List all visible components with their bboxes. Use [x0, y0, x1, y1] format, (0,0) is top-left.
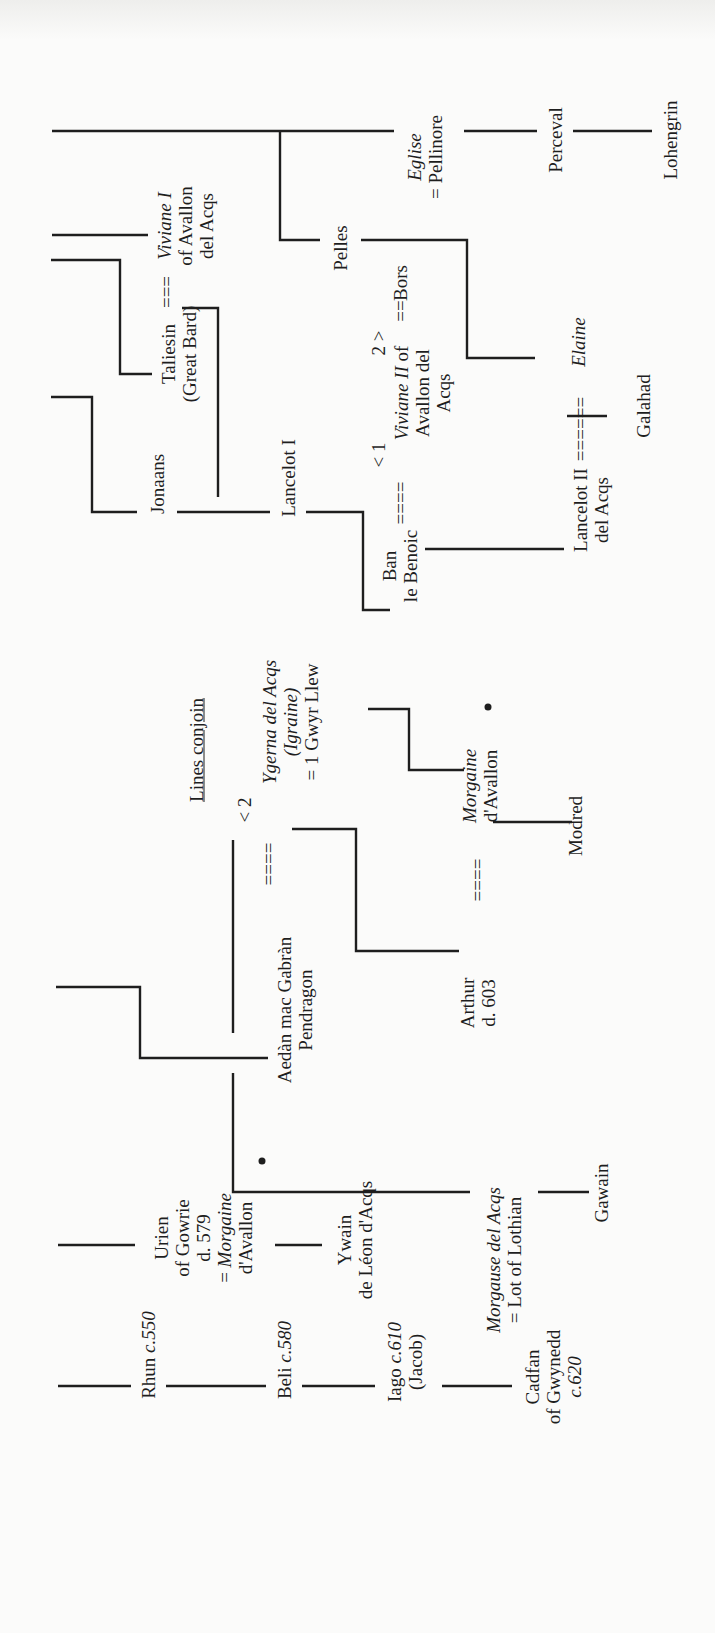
line-to-morgaine — [368, 709, 464, 770]
line-to-taliesin — [51, 260, 152, 374]
person-gawain: Gawain — [591, 1163, 612, 1222]
person-jonaans: Jonaans — [147, 454, 168, 514]
person-modred: Modred — [565, 796, 586, 856]
person-perceval: Perceval — [545, 107, 566, 172]
marriage-taliesin-viviane1: === — [156, 276, 177, 308]
person-urien: Urien of Gowrie d. 579 = Morgaine d'Aval… — [151, 1193, 256, 1283]
marriage-arthur-morgaine: ==== — [467, 859, 488, 902]
person-viviane-2: Viviane II of Avallon del Acqs — [391, 346, 454, 441]
marriage-lancelot2-elaine: ====== — [570, 397, 591, 461]
person-arthur: Arthur d. 603 — [457, 978, 499, 1029]
order-marker-2: 2 > — [368, 331, 389, 356]
line-to-morgause — [233, 1073, 470, 1192]
person-ban: Ban le Benoic — [379, 530, 421, 602]
line-to-pelles — [280, 131, 320, 240]
line-to-aedan — [56, 987, 268, 1058]
person-galahad: Galahad — [633, 374, 654, 437]
order-marker-ygerna: < 2 — [234, 798, 255, 823]
person-iago: Iago c.610 (Jacob) — [384, 1322, 426, 1402]
person-beli: Beli c.580 — [274, 1321, 295, 1399]
line-to-ban — [306, 512, 390, 610]
bullet-marker-urien — [259, 1158, 266, 1165]
person-morgaine: Morgaine d'Avallon — [459, 749, 501, 823]
person-lancelot-2: Lancelot II del Acqs — [570, 468, 612, 552]
person-eglise: Eglise = Pellinore — [404, 115, 446, 199]
marriage-viviane2-bors: == — [390, 300, 411, 321]
line-to-jonaans — [51, 397, 137, 512]
person-cadfan: Cadfan of Gwynedd c.620 — [522, 1330, 585, 1424]
lines-conjoin-note: Lines conjoin — [186, 698, 207, 802]
person-lohengrin: Lohengrin — [660, 100, 681, 179]
line-to-arthur — [292, 829, 459, 951]
bullet-marker-morgaine — [485, 704, 492, 711]
person-ygerna: Ygerna del Acqs (Igraine) = 1 Gwyr Llew — [259, 660, 322, 784]
order-marker-1: < 1 — [368, 443, 389, 468]
person-ywain: Ywain de Léon d'Acqs — [334, 1181, 376, 1299]
marriage-ban-viviane2: ==== — [390, 482, 411, 525]
person-pelles: Pelles — [330, 225, 351, 270]
person-lancelot-1: Lancelot I — [278, 439, 299, 517]
person-aedan: Aedàn mac Gabràn Pendragon — [274, 937, 316, 1084]
person-taliesin: Taliesin (Great Bard) — [158, 306, 200, 403]
tree-connector-lines — [0, 0, 715, 1633]
marriage-aedan-ygerna: ==== — [258, 843, 279, 886]
person-bors: Bors — [390, 265, 411, 301]
person-rhun: Rhun c.550 — [138, 1311, 159, 1399]
person-elaine: Elaine — [568, 317, 589, 367]
person-morgause: Morgause del Acqs = Lot of Lothian — [483, 1187, 525, 1333]
person-viviane-1: Viviane I of Avallon del Acqs — [154, 186, 217, 265]
